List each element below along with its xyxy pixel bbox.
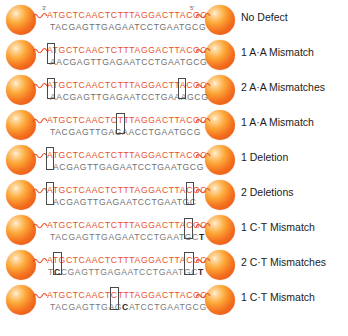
bottom-strand-suffix: ATCCTGAATGCG bbox=[129, 302, 207, 312]
duplex-row-9: ATGCTCAACTCTTTAGGACTTACGC TACGAGTTGAGCAT… bbox=[0, 282, 348, 317]
bottom-strand-sequence: AACGAGTTGAGAATCCTGAATGCG bbox=[50, 57, 207, 67]
duplex-row-4: ATGCTCAACTCTTTAGGACTTACGC TACGAGTTGAGAAC… bbox=[0, 107, 348, 142]
squiggle-linker-icon bbox=[33, 255, 48, 265]
bottom-strand-sequence: ACGAGTTGAGAATCCTGAATGC bbox=[53, 197, 197, 207]
bottom-strand-defect-base: T bbox=[199, 232, 205, 242]
prime-label-3: 3' bbox=[42, 5, 46, 11]
duplex-row-7: ATGCTCAACTCTTTAGGACTTACGC TACGAGTTGAGAAT… bbox=[0, 212, 348, 247]
bottom-strand-sequence: TCCGAGTTGAGAATCCTGAATGCT bbox=[48, 267, 204, 277]
duplex-row-2: ATGCTCAACTCTTTAGGACTTACGC AACGAGTTGAGAAT… bbox=[0, 37, 348, 72]
defect-box-deletion bbox=[46, 182, 54, 205]
defect-box-mismatch bbox=[47, 43, 55, 64]
defect-box-mismatch bbox=[116, 113, 125, 134]
nanoparticle-sphere-icon bbox=[6, 145, 36, 175]
defect-box-deletion bbox=[46, 147, 54, 170]
duplex-row-1: 3' 5' ATGCTCAACTCTTTAGGACTTACGC TACGAGTT… bbox=[0, 2, 348, 37]
nanoparticle-sphere-icon bbox=[6, 180, 36, 210]
squiggle-linker-icon bbox=[33, 45, 48, 55]
top-strand-sequence: ATGCTCAACTCTTTAGGACTTACGC bbox=[47, 185, 207, 195]
bottom-strand-defect-base-2: T bbox=[198, 267, 204, 277]
row-label: 2 A·A Mismatches bbox=[241, 81, 325, 93]
row-label: 2 C·T Mismatches bbox=[241, 256, 326, 268]
nanoparticle-sphere-icon bbox=[6, 40, 36, 70]
defect-box-mismatch bbox=[53, 252, 62, 275]
nanoparticle-sphere-icon bbox=[6, 285, 36, 315]
top-strand-sequence: ATGCTCAACTCTTTAGGACTTACGC bbox=[47, 10, 207, 20]
defect-box-mismatch bbox=[110, 287, 119, 310]
duplex-row-8: ATGCTCAACTCTTTAGGACTTACGC TCCGAGTTGAGAAT… bbox=[0, 247, 348, 282]
row-label: 1 A·A Mismatch bbox=[241, 46, 314, 58]
dna-defect-figure: 3' 5' ATGCTCAACTCTTTAGGACTTACGC TACGAGTT… bbox=[0, 0, 348, 336]
top-strand-sequence: ATGCTCAACTCTTTAGGACTTACGC bbox=[47, 115, 207, 125]
row-label: 2 Deletions bbox=[241, 186, 294, 198]
duplex-row-6: ATGCTCAACTCTTTAGGACTTACGC ACGAGTTGAGAATC… bbox=[0, 177, 348, 212]
bottom-strand-sequence: ACGAGTTGAGAATCCTGAATGCG bbox=[53, 162, 204, 172]
defect-box-mismatch bbox=[184, 218, 193, 239]
squiggle-linker-icon bbox=[33, 290, 48, 300]
bottom-strand-defect-base: C bbox=[122, 302, 129, 312]
top-strand-sequence: ATGCTCAACTCTTTAGGACTTACGC bbox=[47, 150, 207, 160]
row-label: 1 C·T Mismatch bbox=[241, 221, 315, 233]
squiggle-linker-icon bbox=[33, 220, 48, 230]
bottom-strand-main: CGAGTTGAGAATCCTGAATGC bbox=[61, 267, 198, 277]
squiggle-linker-icon bbox=[33, 80, 48, 90]
row-label: 1 A·A Mismatch bbox=[241, 116, 314, 128]
bottom-strand-sequence: TACGAGTTGAGAATCCTGAATGCT bbox=[50, 232, 205, 242]
nanoparticle-sphere-icon bbox=[6, 110, 36, 140]
duplex-row-3: ATGCTCAACTCTTTAGGACTTACGC AACGAGTTGAGAAT… bbox=[0, 72, 348, 107]
defect-box-mismatch bbox=[184, 252, 194, 275]
defect-box-mismatch bbox=[178, 78, 186, 99]
duplex-row-5: ATGCTCAACTCTTTAGGACTTACGC ACGAGTTGAGAATC… bbox=[0, 142, 348, 177]
bottom-strand-main: TACGAGTTGAGAATCCTGAATGC bbox=[50, 232, 199, 242]
row-label: No Defect bbox=[241, 11, 288, 23]
top-strand-sequence: ATGCTCAACTCTTTAGGACTTACGC bbox=[47, 290, 207, 300]
squiggle-linker-icon bbox=[33, 10, 48, 20]
nanoparticle-sphere-icon bbox=[6, 215, 36, 245]
defect-box-mismatch bbox=[47, 78, 55, 99]
bottom-strand-sequence: TACGAGTTGAGCATCCTGAATGCG bbox=[50, 302, 207, 312]
squiggle-linker-icon bbox=[33, 115, 48, 125]
bottom-strand-sequence: TACGAGTTGAGAACCTGAATGCG bbox=[50, 127, 201, 137]
row-label: 1 C·T Mismatch bbox=[241, 291, 315, 303]
nanoparticle-sphere-icon bbox=[6, 75, 36, 105]
nanoparticle-sphere-icon bbox=[6, 250, 36, 280]
nanoparticle-sphere-icon bbox=[6, 5, 36, 35]
top-strand-sequence: ATGCTCAACTCTTTAGGACTTACGC bbox=[47, 45, 207, 55]
defect-box-deletion bbox=[186, 182, 194, 205]
row-label: 1 Deletion bbox=[241, 151, 288, 163]
bottom-strand-sequence: TACGAGTTGAGAATCCTGAATGCG bbox=[50, 22, 206, 32]
